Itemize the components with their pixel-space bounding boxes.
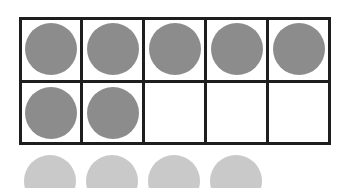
counter-filled (25, 87, 77, 139)
counter-filled (25, 23, 77, 75)
counter-extra (24, 155, 76, 188)
counter-filled (211, 23, 263, 75)
counter-filled (87, 23, 139, 75)
grid-divider (19, 80, 331, 83)
counter-extra (86, 155, 138, 188)
counter-filled (273, 23, 325, 75)
counter-extra (210, 155, 262, 188)
counter-filled (87, 87, 139, 139)
counter-filled (149, 23, 201, 75)
counter-extra (148, 155, 200, 188)
